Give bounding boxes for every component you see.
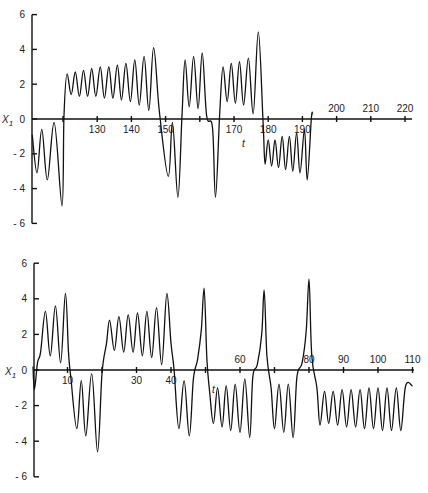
x-tick-label: 80 xyxy=(303,354,315,365)
y-tick-label: 6 xyxy=(21,258,27,269)
y-tick-label: 0 xyxy=(21,365,27,376)
y-axis-title: X1 xyxy=(4,366,16,380)
series-line xyxy=(33,279,413,452)
y-tick-label: - 6 xyxy=(15,471,27,482)
y-tick-label: - 2 xyxy=(13,148,25,159)
x-tick-label: 140 xyxy=(123,124,140,135)
x-tick-label: 30 xyxy=(131,375,143,386)
y-tick-label: 0 xyxy=(19,114,25,125)
y-tick-label: - 2 xyxy=(15,400,27,411)
y-tick-label: - 4 xyxy=(13,183,25,194)
top-chart: 6420- 2- 4- 6130140150170180190200210220… xyxy=(1,9,414,229)
x-tick-label: 90 xyxy=(338,354,350,365)
figure: 6420- 2- 4- 6130140150170180190200210220… xyxy=(0,0,428,493)
x-tick-label: 220 xyxy=(397,103,414,114)
x-tick-label: 180 xyxy=(260,124,277,135)
y-tick-label: 4 xyxy=(19,44,25,55)
x-tick-label: 210 xyxy=(362,103,379,114)
x-tick-label: 200 xyxy=(328,103,345,114)
x-tick-label: 100 xyxy=(370,354,387,365)
bottom-chart: 6420- 2- 4- 6103040608090100110X1t xyxy=(4,258,421,483)
x-tick-label: 60 xyxy=(234,354,246,365)
x-tick-label: 130 xyxy=(89,124,106,135)
x-tick-label: 110 xyxy=(405,354,421,365)
y-axis-title: X1 xyxy=(1,114,13,128)
x-axis-title: t xyxy=(242,138,246,149)
x-axis-title: t xyxy=(212,384,216,395)
y-tick-label: - 6 xyxy=(13,218,25,229)
y-tick-label: 6 xyxy=(19,9,25,20)
y-tick-label: - 4 xyxy=(15,436,27,447)
x-tick-label: 170 xyxy=(226,124,243,135)
y-tick-label: 4 xyxy=(21,293,27,304)
y-tick-label: 2 xyxy=(19,79,25,90)
y-tick-label: 2 xyxy=(21,329,27,340)
